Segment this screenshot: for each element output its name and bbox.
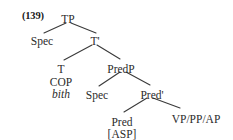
tree-branch-tbar-to-predp — [97, 45, 120, 59]
tree-node-tp: TP — [61, 14, 74, 26]
tree-node-t: T — [57, 64, 64, 76]
tree-terminal-t-cop: COP — [50, 77, 72, 89]
tree-branch-tbar-to-t — [64, 45, 92, 60]
tree-node-tbar: T' — [90, 36, 99, 48]
tree-node-predbar: Pred' — [140, 90, 163, 102]
tree-terminal-pred-asp: [ASP] — [108, 129, 137, 140]
tree-node-complement: VP/PP/AP — [172, 114, 221, 126]
tree-node-spec-tp: Spec — [31, 36, 53, 48]
tree-node-pred: Pred — [111, 117, 132, 129]
tree-branch-tp-to-tbar — [71, 23, 96, 33]
tree-node-spec-pred: Spec — [86, 90, 108, 102]
tree-node-predp: PredP — [107, 64, 134, 76]
syntax-tree-figure: (139) TPSpecT'TPredPSpecPred'PredVP/PP/A… — [0, 0, 233, 140]
tree-terminal-t-bith: bith — [52, 89, 70, 101]
